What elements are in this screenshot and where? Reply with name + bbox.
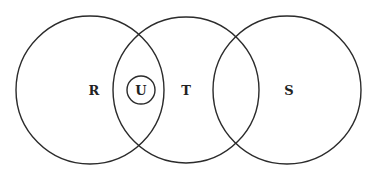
label-u: U [135, 83, 147, 98]
label-t: T [181, 83, 191, 98]
label-r: R [89, 83, 100, 98]
venn-diagram: R U T S [0, 0, 371, 185]
label-s: S [284, 83, 293, 98]
